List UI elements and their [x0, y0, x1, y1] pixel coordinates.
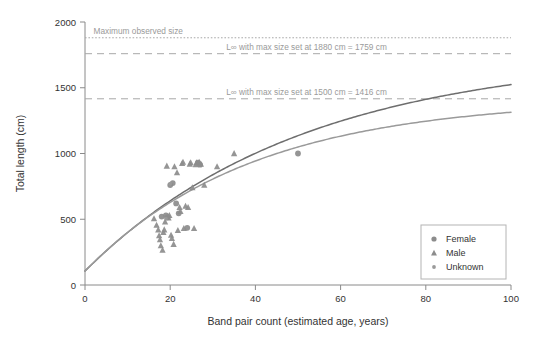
data-point-female [295, 151, 301, 157]
y-axis-title: Total length (cm) [14, 115, 26, 193]
data-point-male [231, 150, 237, 156]
data-point-unknown [164, 217, 168, 221]
data-point-male [191, 225, 197, 231]
legend-label-male: Male [446, 248, 466, 258]
data-point-unknown [168, 182, 172, 186]
y-tick-label: 0 [71, 280, 76, 291]
data-point-male [174, 169, 180, 175]
data-point-female [173, 201, 179, 207]
data-point-male [214, 163, 220, 169]
x-tick-label: 40 [250, 293, 261, 304]
data-point-male [161, 226, 167, 232]
y-tick-label: 2000 [55, 17, 76, 28]
y-tick-label: 1500 [55, 82, 76, 93]
reference-label-linf-1500: L∞ with max size set at 1500 cm = 1416 c… [226, 87, 387, 97]
x-tick-label: 20 [165, 293, 176, 304]
legend: FemaleMaleUnknown [421, 225, 506, 279]
data-point-male [153, 222, 159, 228]
legend-marker-female [431, 236, 436, 241]
chart-figure: 0500100015002000020406080100Band pair co… [0, 0, 537, 347]
legend-marker-unknown [432, 265, 436, 269]
scatter-plot: 0500100015002000020406080100Band pair co… [0, 0, 537, 347]
data-point-male [164, 163, 170, 169]
x-tick-label: 100 [503, 293, 519, 304]
x-axis-title: Band pair count (estimated age, years) [208, 315, 389, 327]
scatter-points [151, 150, 301, 253]
reference-lines: Maximum observed sizeL∞ with max size se… [85, 26, 511, 99]
data-point-male [158, 242, 164, 248]
series-female [159, 151, 301, 231]
x-axis-ticks: 020406080100 [82, 285, 519, 304]
data-point-male [151, 215, 157, 221]
data-point-male [188, 159, 194, 165]
x-tick-label: 60 [335, 293, 346, 304]
data-point-male [170, 241, 176, 247]
x-tick-label: 80 [421, 293, 432, 304]
legend-label-unknown: Unknown [446, 262, 484, 272]
x-tick-label: 0 [82, 293, 87, 304]
y-tick-label: 1000 [55, 148, 76, 159]
legend-label-female: Female [446, 234, 476, 244]
data-point-male [175, 227, 181, 233]
series-male [151, 150, 237, 253]
y-tick-label: 500 [60, 214, 76, 225]
data-point-male [180, 159, 186, 165]
plot-layers: 0500100015002000020406080100Band pair co… [14, 17, 519, 327]
data-point-male [171, 163, 177, 169]
y-axis-ticks: 0500100015002000 [55, 17, 85, 291]
reference-label-maximum-observed-size: Maximum observed size [94, 26, 184, 36]
reference-label-linf-1880: L∞ with max size set at 1880 cm = 1759 c… [226, 42, 387, 52]
